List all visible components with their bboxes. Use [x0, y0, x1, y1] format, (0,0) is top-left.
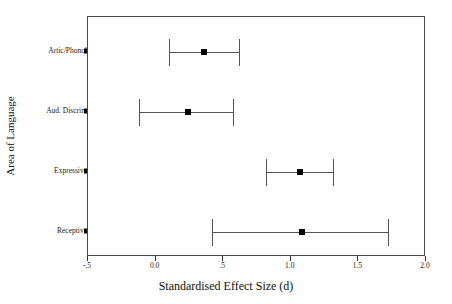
x-tick-label-0: -.5: [83, 262, 91, 270]
x-tick-label-4: 1.5: [353, 262, 362, 270]
errorbar-cap-lower: [169, 39, 170, 66]
y-tick-label-aud-discrim: Aud. Discrim: [0, 107, 87, 115]
x-axis-title: Standardised Effect Size (d): [0, 279, 452, 294]
errorbar-cap-lower: [266, 159, 267, 186]
x-tick-label-2: .5: [219, 262, 225, 270]
x-tick-label-5: 2.0: [420, 262, 429, 270]
errorbar-cap-upper: [233, 99, 234, 126]
plot-area: [88, 17, 424, 255]
errorbar-cap-upper: [333, 159, 334, 186]
x-tick-label-1: 0.0: [150, 262, 159, 270]
errorbar-cap-upper: [388, 219, 389, 246]
plot-frame: [87, 16, 425, 256]
y-tick-label-receptive: Receptive: [0, 227, 87, 235]
errorbar-cap-lower: [212, 219, 213, 246]
data-point-marker: [185, 109, 191, 115]
x-tick-label-3: 1.0: [285, 262, 294, 270]
y-tick-label-expressive: Expressive: [0, 167, 87, 175]
data-point-marker: [299, 229, 305, 235]
errorbar-cap-upper: [239, 39, 240, 66]
data-point-marker: [297, 169, 303, 175]
errorbar-cap-lower: [139, 99, 140, 126]
forest-plot-chart: Area of Language Artic/PhonolAud. Discri…: [0, 0, 452, 304]
data-point-marker: [201, 49, 207, 55]
y-tick-label-artic-phonol: Artic/Phonol: [0, 47, 87, 55]
